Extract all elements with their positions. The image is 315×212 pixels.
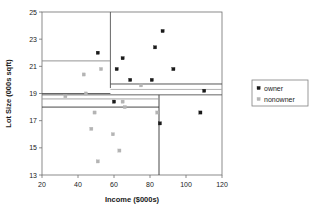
data-point-nonowner[interactable] [90,127,93,130]
scatter-plot-figure: 2040608010012013151719212325Income ($000… [0,0,315,212]
data-point-nonowner[interactable] [93,111,96,114]
data-point-owner[interactable] [199,111,202,114]
y-axis-tick-label: 13 [29,172,37,179]
y-axis-tick-label: 19 [29,90,37,97]
data-point-nonowner[interactable] [111,133,114,136]
y-axis-tick-label: 17 [29,117,37,124]
data-point-owner[interactable] [153,46,156,49]
data-point-owner[interactable] [96,51,99,54]
data-point-nonowner[interactable] [139,84,142,87]
data-point-nonowner[interactable] [84,92,87,95]
data-point-nonowner[interactable] [118,149,121,152]
data-point-nonowner[interactable] [99,67,102,70]
data-point-nonowner[interactable] [82,73,85,76]
legend-label-owner[interactable]: owner [264,85,284,92]
data-point-nonowner[interactable] [64,95,67,98]
y-axis-title: Lot Size (000s sqft) [4,59,13,128]
x-axis-tick-label: 120 [216,181,228,188]
data-point-nonowner[interactable] [121,100,124,103]
y-axis-tick-label: 23 [29,36,37,43]
x-axis-title: Income ($000s) [105,195,160,204]
data-point-owner[interactable] [161,29,164,32]
data-point-owner[interactable] [172,67,175,70]
y-axis-tick-label: 25 [29,9,37,16]
data-point-owner[interactable] [150,78,153,81]
legend-label-nonowner[interactable]: nonowner [264,96,295,103]
legend-marker-nonowner [257,97,260,100]
data-point-owner[interactable] [112,100,115,103]
x-axis-tick-label: 40 [74,181,82,188]
data-point-nonowner[interactable] [96,160,99,163]
y-axis-tick-label: 21 [29,63,37,70]
data-point-owner[interactable] [129,78,132,81]
data-point-owner[interactable] [115,67,118,70]
data-point-owner[interactable] [121,57,124,60]
x-axis-tick-label: 80 [146,181,154,188]
data-point-nonowner[interactable] [123,105,126,108]
legend-marker-owner [257,86,260,89]
x-axis-tick-label: 100 [180,181,192,188]
data-point-owner[interactable] [203,89,206,92]
y-axis-tick-label: 15 [29,144,37,151]
x-axis-tick-label: 20 [38,181,46,188]
data-point-nonowner[interactable] [156,111,159,114]
data-point-owner[interactable] [158,122,161,125]
x-axis-tick-label: 60 [110,181,118,188]
